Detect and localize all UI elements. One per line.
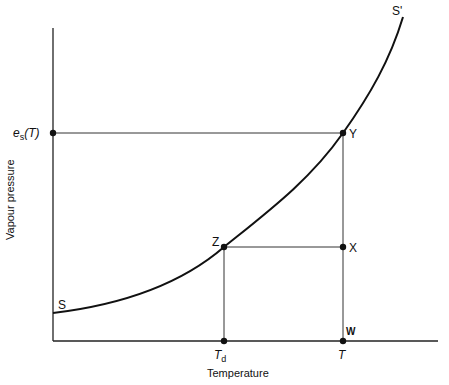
point-w	[340, 338, 346, 344]
label-x: X	[349, 242, 357, 254]
point-y	[340, 130, 346, 136]
vapour-pressure-diagram	[0, 0, 449, 385]
y-tick-arg: (T)	[24, 126, 39, 140]
y-axis-label: Vapour pressure	[4, 159, 16, 240]
label-s: S	[58, 299, 66, 311]
saturation-curve	[53, 17, 403, 313]
label-y: Y	[349, 128, 357, 140]
label-w: W	[346, 327, 355, 337]
point-x	[340, 244, 346, 250]
x-tick-td-sub: d	[221, 354, 226, 364]
x-tick-t: T	[338, 349, 345, 361]
label-s-prime: S'	[392, 5, 402, 17]
y-tick-e: e	[13, 126, 20, 140]
point-z	[221, 244, 227, 250]
x-axis-label: Temperature	[207, 368, 269, 379]
x-tick-td: Td	[214, 349, 226, 364]
point-es	[50, 130, 56, 136]
y-tick-es-t: es(T)	[13, 127, 40, 142]
label-z: Z	[212, 236, 219, 248]
point-td	[221, 338, 227, 344]
